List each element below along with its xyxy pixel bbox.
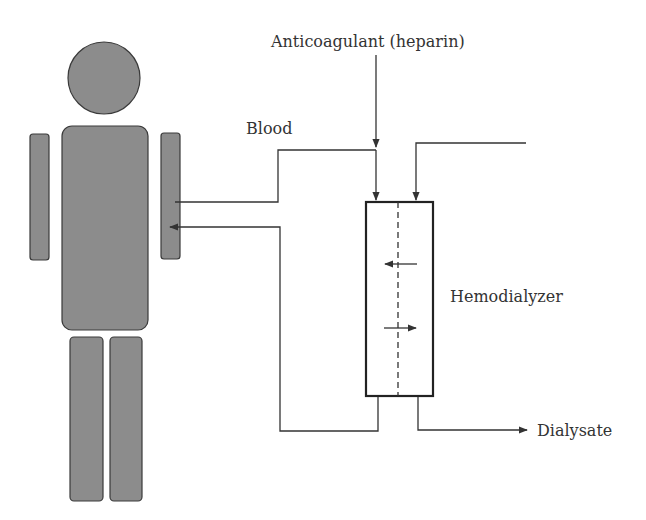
right-arm <box>161 133 180 259</box>
hemodialysis-diagram: Anticoagulant (heparin) Blood Hemodialyz… <box>0 0 646 520</box>
blood-return-arrow <box>170 227 378 431</box>
anticoagulant-label: Anticoagulant (heparin) <box>270 32 465 51</box>
left-arm <box>30 134 49 260</box>
hemodialyzer <box>366 202 433 396</box>
dialysate-inflow-arrow <box>416 143 526 200</box>
left-leg <box>70 337 103 501</box>
right-leg <box>110 337 142 501</box>
dialysate-outflow-arrow <box>418 397 527 430</box>
blood-label: Blood <box>246 119 292 138</box>
patient-figure <box>30 42 180 501</box>
hemodialyzer-box <box>366 202 433 396</box>
dialysate-label: Dialysate <box>537 421 612 440</box>
torso <box>62 126 148 330</box>
blood-outflow-line <box>175 150 376 202</box>
head <box>68 42 140 114</box>
hemodialyzer-label: Hemodialyzer <box>450 287 563 306</box>
